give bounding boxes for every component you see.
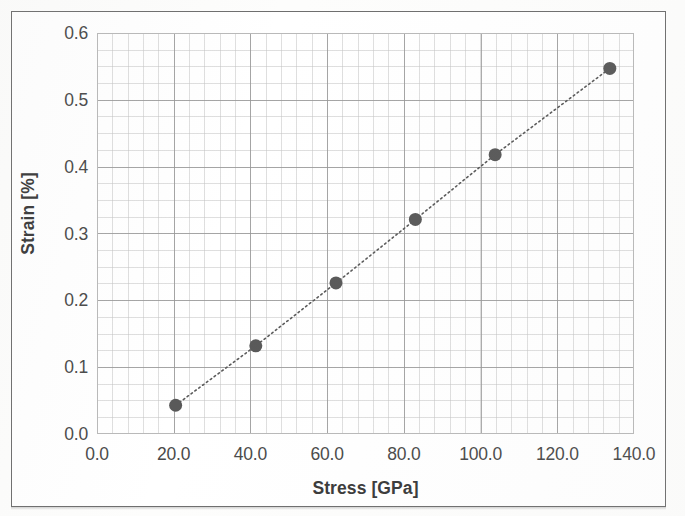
x-tick-label: 40.0 <box>210 444 290 465</box>
stress-strain-chart: 0.6 0.5 0.4 0.3 0.2 0.1 0.0 0.0 20.0 40.… <box>0 0 685 516</box>
y-tick-label: 0.6 <box>30 23 88 44</box>
x-tick-label: 100.0 <box>441 444 521 465</box>
x-axis-title: Stress [GPa] <box>97 478 634 499</box>
x-tick-label: 20.0 <box>134 444 214 465</box>
y-tick-label: 0.4 <box>30 156 88 177</box>
y-axis-title: Strain [%] <box>18 124 39 304</box>
data-point <box>409 213 422 226</box>
x-tick-label: 0.0 <box>57 444 137 465</box>
series-trendline <box>176 68 610 405</box>
y-tick-label: 0.5 <box>30 89 88 110</box>
x-tick-label: 140.0 <box>594 444 674 465</box>
data-point <box>489 148 502 161</box>
data-point <box>169 399 182 412</box>
series-layer <box>97 33 634 434</box>
data-point <box>603 62 616 75</box>
data-point <box>249 339 262 352</box>
y-tick-label: 0.0 <box>30 424 88 445</box>
data-point <box>329 276 342 289</box>
y-tick-label: 0.2 <box>30 290 88 311</box>
y-tick-label: 0.3 <box>30 223 88 244</box>
x-tick-label: 120.0 <box>517 444 597 465</box>
x-tick-label: 80.0 <box>364 444 444 465</box>
y-tick-label: 0.1 <box>30 357 88 378</box>
x-tick-label: 60.0 <box>287 444 367 465</box>
scanned-page: 0.6 0.5 0.4 0.3 0.2 0.1 0.0 0.0 20.0 40.… <box>0 0 685 516</box>
